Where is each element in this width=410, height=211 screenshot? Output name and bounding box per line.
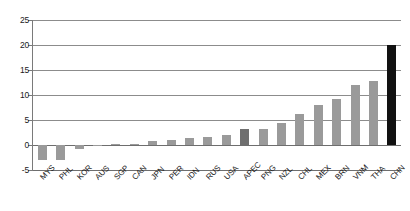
- bar-rus: [203, 137, 212, 146]
- bar-chl: [295, 114, 304, 145]
- bar-brn: [332, 99, 341, 145]
- y-tick-label: 5: [24, 116, 29, 125]
- bar-usa: [222, 135, 231, 146]
- y-tick-label: 20: [20, 41, 29, 50]
- bar-idn: [185, 138, 194, 145]
- plot-area: [33, 20, 401, 170]
- bar-apec: [240, 129, 249, 145]
- bar-chart: 2520151050-5 MYSPHLKORAUSSGPCANJPNPERIDN…: [0, 0, 410, 211]
- bar-aus: [93, 145, 102, 146]
- y-tick-label: 25: [20, 16, 29, 25]
- bar-sgp: [111, 144, 120, 145]
- bar-can: [130, 144, 139, 146]
- y-tick-label: 10: [20, 91, 29, 100]
- bar-nzl: [277, 123, 286, 145]
- gridline-20: [33, 45, 401, 46]
- bar-vnm: [351, 85, 360, 146]
- bar-jpn: [148, 141, 157, 145]
- bar-phl: [56, 145, 65, 160]
- y-tick-label: -5: [22, 166, 29, 175]
- bar-mex: [314, 105, 323, 145]
- gridline-25: [33, 20, 401, 21]
- gridline-10: [33, 95, 401, 96]
- bar-png: [259, 129, 268, 146]
- bar-chn: [387, 45, 396, 145]
- bar-kor: [75, 145, 84, 149]
- y-tick-label: 0: [24, 141, 29, 150]
- bar-mys: [38, 145, 47, 160]
- gridline-0: [33, 145, 401, 146]
- y-tick-label: 15: [20, 66, 29, 75]
- gridline-15: [33, 70, 401, 71]
- bar-per: [167, 140, 176, 146]
- gridline-5: [33, 120, 401, 121]
- bar-tha: [369, 81, 378, 145]
